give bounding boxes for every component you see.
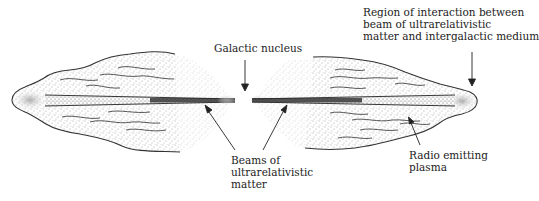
label-region-of-interaction: Region of interaction between beam of ul… xyxy=(363,6,539,42)
plasma-line-1: Radio emitting xyxy=(409,149,488,161)
region-line-2: beam of ultrarelativistic xyxy=(363,18,539,30)
label-beams: Beams of ultrarelativistic matter xyxy=(231,154,313,190)
arrow-head-icon xyxy=(242,84,249,91)
galactic-nucleus-text: Galactic nucleus xyxy=(214,42,302,54)
nucleus-glow-left xyxy=(217,94,237,106)
left-lobe xyxy=(12,52,235,152)
beams-line-2: ultrarelativistic xyxy=(231,166,313,178)
beams-line-1: Beams of xyxy=(231,154,313,166)
label-galactic-nucleus: Galactic nucleus xyxy=(214,42,302,54)
right-lobe xyxy=(252,57,478,150)
plasma-line-2: plasma xyxy=(409,161,488,173)
label-radio-plasma: Radio emitting plasma xyxy=(409,149,488,173)
region-line-1: Region of interaction between xyxy=(363,6,539,18)
beams-line-3: matter xyxy=(231,178,313,190)
region-line-3: matter and intergalactic medium xyxy=(363,30,539,42)
